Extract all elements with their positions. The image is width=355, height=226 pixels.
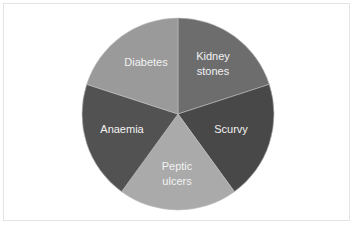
pie-chart	[0, 0, 355, 226]
slice-label-anaemia: Anaemia	[100, 122, 143, 137]
slice-label-diabetes: Diabetes	[124, 55, 167, 70]
slice-label-scurvy: Scurvy	[214, 122, 248, 137]
slice-label-kidney-stones: Kidney stones	[196, 49, 230, 79]
slice-label-peptic-ulcers: Peptic ulcers	[162, 159, 193, 189]
